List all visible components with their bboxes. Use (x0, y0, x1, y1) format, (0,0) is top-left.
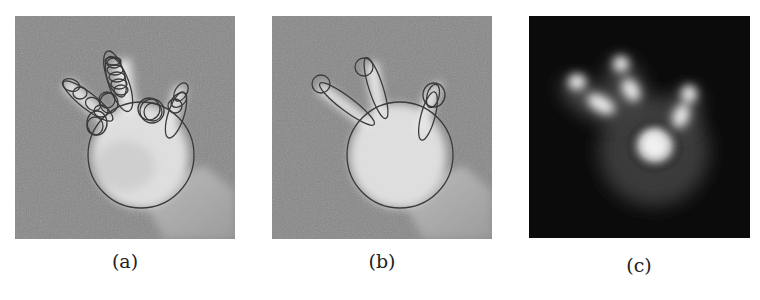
panel-a-caption: (a) (95, 250, 155, 272)
panel-a-image (15, 16, 235, 239)
panel-b-caption: (b) (352, 250, 412, 272)
panel-c-image (529, 16, 750, 238)
panel-c-caption: (c) (609, 254, 669, 276)
panel-b-image (272, 16, 492, 239)
